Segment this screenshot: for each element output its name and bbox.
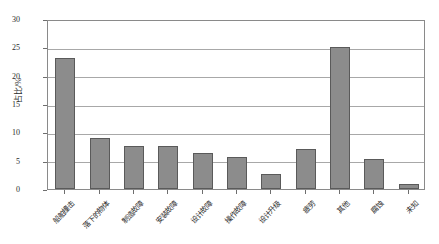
bar-chart: 占比/% 051015202530 船舶撞击落下的物体制造故障安装故障设计故障操… [0, 0, 439, 244]
bar [330, 47, 350, 189]
y-axis-title: 占比/% [12, 61, 23, 121]
y-tick-label: 25 [0, 44, 20, 52]
x-tick-mark [167, 190, 168, 194]
x-tick-mark [99, 190, 100, 194]
bar [296, 149, 316, 189]
x-tick-mark [373, 190, 374, 194]
bar [364, 159, 384, 189]
y-tick-label: 15 [0, 101, 20, 109]
x-tick-mark [64, 190, 65, 194]
gridline [48, 106, 424, 107]
gridline [48, 49, 424, 50]
x-tick-mark [408, 190, 409, 194]
bar [55, 58, 75, 189]
bar [227, 157, 247, 189]
plot-area [47, 20, 425, 190]
gridline [48, 77, 424, 78]
bar [158, 146, 178, 189]
x-tick-mark [236, 190, 237, 194]
bar [124, 146, 144, 189]
gridline [48, 134, 424, 135]
y-tick-label: 20 [0, 73, 20, 81]
bar [399, 184, 419, 189]
bar [90, 138, 110, 189]
bar [261, 174, 281, 189]
x-tick-mark [133, 190, 134, 194]
x-tick-mark [339, 190, 340, 194]
x-tick-mark [270, 190, 271, 194]
bar [193, 153, 213, 189]
y-tick-label: 30 [0, 16, 20, 24]
y-tick-mark [43, 190, 47, 191]
x-tick-mark [305, 190, 306, 194]
x-tick-mark [202, 190, 203, 194]
y-tick-label: 5 [0, 158, 20, 166]
y-tick-label: 10 [0, 129, 20, 137]
y-tick-label: 0 [0, 186, 20, 194]
